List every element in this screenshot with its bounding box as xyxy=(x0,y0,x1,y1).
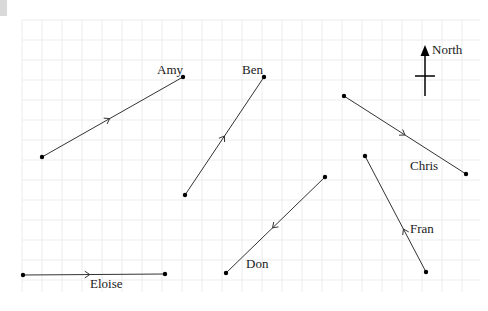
path-label: Ben xyxy=(242,62,263,77)
path-line xyxy=(23,274,165,275)
start-point xyxy=(323,175,327,179)
movement-diagram: AmyBenChrisDonEloiseFran North xyxy=(0,0,488,311)
path-chris: Chris xyxy=(342,94,468,176)
path-label: Chris xyxy=(410,158,438,173)
path-label: Fran xyxy=(410,221,434,236)
path-label: Eloise xyxy=(90,276,123,291)
path-line xyxy=(365,156,426,272)
end-point xyxy=(464,172,468,176)
north-label: North xyxy=(432,42,463,57)
path-ben: Ben xyxy=(183,62,266,197)
start-point xyxy=(40,155,44,159)
start-point xyxy=(21,273,25,277)
end-point xyxy=(163,272,167,276)
end-point xyxy=(224,271,228,275)
grid xyxy=(22,20,480,292)
path-line xyxy=(226,177,325,273)
path-label: Amy xyxy=(157,62,184,77)
start-point xyxy=(424,270,428,274)
end-point xyxy=(363,154,367,158)
start-point xyxy=(342,94,346,98)
path-eloise: Eloise xyxy=(21,271,167,291)
path-label: Don xyxy=(246,256,269,271)
paths: AmyBenChrisDonEloiseFran xyxy=(21,62,468,291)
start-point xyxy=(183,193,187,197)
